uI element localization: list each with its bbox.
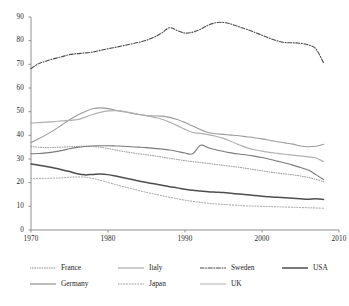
series-line-japan (31, 177, 324, 208)
legend-item-italy[interactable]: Italy (118, 262, 163, 274)
legend-swatch-uk (200, 280, 226, 288)
series-line-sweden (31, 22, 324, 68)
legend-label-italy: Italy (149, 264, 163, 272)
series-line-usa (31, 164, 324, 200)
legend-swatch-usa (282, 264, 308, 272)
legend-swatch-japan (118, 280, 144, 288)
legend-label-japan: Japan (149, 280, 166, 288)
series-line-italy (31, 108, 324, 147)
chart-legend: FranceItalySwedenUSAGermanyJapanUK (0, 258, 349, 300)
x-tick-label: 1970 (16, 235, 46, 243)
y-tick-label: 60 (6, 84, 24, 92)
legend-label-uk: UK (231, 280, 242, 288)
y-tick-label: 90 (6, 13, 24, 21)
series-line-uk (31, 111, 324, 162)
x-tick-label: 1980 (93, 235, 123, 243)
legend-label-usa: USA (313, 264, 328, 272)
x-tick-label: 2010 (324, 235, 349, 243)
y-tick-label: 0 (6, 226, 24, 234)
y-tick-label: 80 (6, 36, 24, 44)
x-tick-label: 1990 (170, 235, 200, 243)
y-tick-label: 30 (6, 155, 24, 163)
legend-swatch-italy (118, 264, 144, 272)
line-chart: 0102030405060708090 19701980199020002010… (0, 0, 349, 306)
legend-item-sweden[interactable]: Sweden (200, 262, 254, 274)
y-tick-label: 40 (6, 131, 24, 139)
legend-swatch-germany (30, 280, 56, 288)
legend-item-japan[interactable]: Japan (118, 278, 166, 290)
legend-swatch-sweden (200, 264, 226, 272)
plot-area (0, 0, 349, 260)
y-tick-label: 10 (6, 202, 24, 210)
y-tick-label: 70 (6, 60, 24, 68)
legend-item-france[interactable]: France (30, 262, 81, 274)
legend-swatch-france (30, 264, 56, 272)
y-tick-label: 20 (6, 178, 24, 186)
data-series-group (31, 22, 324, 208)
legend-label-sweden: Sweden (231, 264, 254, 272)
legend-label-germany: Germany (61, 280, 89, 288)
legend-label-france: France (61, 264, 81, 272)
legend-item-usa[interactable]: USA (282, 262, 328, 274)
legend-item-germany[interactable]: Germany (30, 278, 89, 290)
y-tick-label: 50 (6, 107, 24, 115)
x-tick-label: 2000 (247, 235, 277, 243)
legend-item-uk[interactable]: UK (200, 278, 242, 290)
series-line-germany (31, 145, 324, 180)
